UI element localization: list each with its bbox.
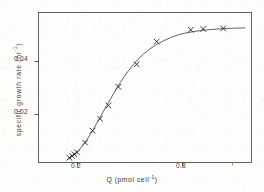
fitted-curve — [68, 28, 245, 159]
y-axis-title: specific growth rate (hr-1) — [15, 20, 22, 160]
chart-plot-area — [0, 0, 264, 192]
x-axis-title-tail: ) — [155, 176, 158, 183]
data-point-markers — [67, 26, 226, 160]
x-axis-ticks — [78, 163, 233, 167]
x-tick-label-0.2: 0.2 — [71, 162, 81, 169]
x-tick-label-0.8: 0.8 — [176, 162, 186, 169]
y-axis-title-tail: ) — [15, 43, 22, 46]
axes-frame — [39, 13, 252, 163]
y-axis-title-text: specific growth rate (hr — [15, 52, 22, 137]
x-axis-title: Q (pmol cell-1) — [0, 176, 264, 183]
y-axis-ticks — [35, 62, 39, 115]
x-axis-title-text: Q (pmol cell — [106, 176, 149, 183]
figure-container: 0.04 0.02 0.2 0.8 Q (pmol cell-1) specif… — [0, 0, 264, 192]
y-axis-title-exponent: -1 — [13, 46, 18, 52]
